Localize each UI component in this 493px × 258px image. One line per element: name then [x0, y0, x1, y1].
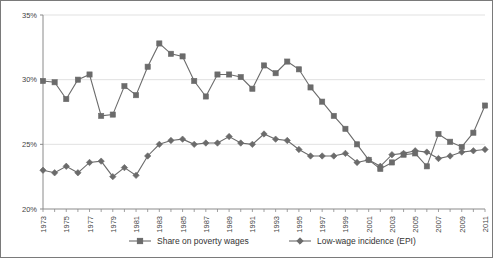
- x-tick-label-1997: 1997: [318, 216, 327, 233]
- x-tick-label-1973: 1973: [39, 216, 48, 233]
- series-poverty-wages-point-21: [285, 59, 290, 64]
- series-poverty-wages-point-3: [75, 77, 80, 82]
- series-poverty-wages-point-22: [296, 67, 301, 72]
- series-poverty-wages-point-26: [343, 126, 348, 131]
- series-poverty-wages-point-7: [122, 84, 127, 89]
- series-poverty-wages-point-9: [145, 64, 150, 69]
- x-tick-label-1981: 1981: [132, 216, 141, 233]
- x-tick-label-1993: 1993: [272, 216, 281, 233]
- series-poverty-wages-point-12: [180, 54, 185, 59]
- series-poverty-wages-point-14: [203, 94, 208, 99]
- series-poverty-wages-point-2: [64, 96, 69, 101]
- series-poverty-wages-point-15: [215, 72, 220, 77]
- chart-legend: Share on poverty wagesLow-wage incidence…: [129, 236, 416, 246]
- x-tick-label-1995: 1995: [295, 216, 304, 233]
- x-tick-label-1977: 1977: [86, 216, 95, 233]
- series-poverty-wages-point-5: [99, 113, 104, 118]
- x-tick-label-1989: 1989: [225, 216, 234, 233]
- x-tick-label-2009: 2009: [458, 216, 467, 233]
- series-poverty-wages-point-0: [40, 78, 45, 83]
- series-poverty-wages-point-16: [227, 72, 232, 77]
- series-poverty-wages-point-34: [436, 131, 441, 136]
- series-poverty-wages-point-1: [52, 80, 57, 85]
- x-tick-label-1979: 1979: [109, 216, 118, 233]
- chart-figure: 20%25%30%35%1973197519771979198119831985…: [0, 0, 493, 258]
- legend-label-0: Share on poverty wages: [157, 236, 249, 246]
- legend-marker-diamond: [297, 238, 303, 244]
- series-poverty-wages-point-4: [87, 72, 92, 77]
- series-poverty-wages-point-10: [157, 41, 162, 46]
- x-tick-label-1991: 1991: [248, 216, 257, 233]
- y-tick-label-30: 30%: [22, 75, 37, 84]
- series-poverty-wages-point-8: [133, 93, 138, 98]
- series-poverty-wages-point-25: [331, 113, 336, 118]
- x-tick-label-2007: 2007: [434, 216, 443, 233]
- x-tick-label-2011: 2011: [481, 216, 490, 232]
- y-tick-label-25: 25%: [22, 140, 37, 149]
- legend-label-1: Low-wage incidence (EPI): [317, 236, 416, 246]
- series-poverty-wages-point-20: [273, 71, 278, 76]
- x-tick-label-2001: 2001: [365, 216, 374, 233]
- series-poverty-wages-point-35: [448, 139, 453, 144]
- series-poverty-wages-point-27: [354, 142, 359, 147]
- series-poverty-wages-point-6: [110, 112, 115, 117]
- x-tick-label-1985: 1985: [179, 216, 188, 233]
- series-poverty-wages-point-38: [482, 103, 487, 108]
- legend-marker-square: [137, 238, 142, 243]
- series-poverty-wages-point-19: [261, 63, 266, 68]
- x-tick-label-1975: 1975: [62, 216, 71, 233]
- series-poverty-wages-point-17: [238, 74, 243, 79]
- series-poverty-wages-point-24: [320, 99, 325, 104]
- series-poverty-wages-point-13: [192, 78, 197, 83]
- x-tick-label-2003: 2003: [388, 216, 397, 233]
- series-poverty-wages-point-30: [389, 160, 394, 165]
- series-poverty-wages-point-33: [424, 164, 429, 169]
- series-poverty-wages-point-18: [250, 86, 255, 91]
- y-tick-label-20: 20%: [22, 205, 37, 214]
- x-tick-label-2005: 2005: [411, 216, 420, 233]
- series-poverty-wages-point-23: [308, 85, 313, 90]
- series-poverty-wages-point-11: [168, 51, 173, 56]
- plot-background: [43, 15, 485, 209]
- series-poverty-wages-point-37: [471, 130, 476, 135]
- y-tick-label-35: 35%: [22, 11, 37, 20]
- x-tick-label-1987: 1987: [202, 216, 211, 233]
- x-tick-label-1983: 1983: [155, 216, 164, 233]
- line-chart-svg: 20%25%30%35%1973197519771979198119831985…: [1, 1, 493, 258]
- x-tick-label-1999: 1999: [341, 216, 350, 233]
- chart-plot-area: 20%25%30%35%1973197519771979198119831985…: [1, 1, 493, 258]
